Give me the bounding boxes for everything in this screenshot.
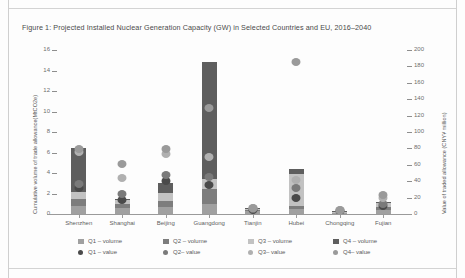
legend-square-icon — [163, 239, 169, 244]
x-tick-mark — [166, 214, 167, 218]
bar-segment — [202, 62, 217, 179]
value-marker — [74, 145, 83, 153]
y-tick-mark — [52, 153, 57, 154]
value-marker — [118, 174, 127, 182]
y-tick-left: 6 — [36, 149, 50, 155]
bar-segment — [115, 204, 130, 209]
value-marker — [161, 171, 170, 179]
bar-segment — [158, 193, 173, 201]
y-tick-right: 140 — [414, 95, 430, 101]
bar-segment — [289, 206, 304, 210]
y-tick-mark — [52, 91, 57, 92]
value-marker — [205, 173, 214, 181]
bar-segment — [158, 201, 173, 207]
y-tick-mark — [407, 99, 412, 100]
value-marker — [205, 104, 214, 112]
y-tick-mark — [407, 148, 412, 149]
x-axis-line — [47, 214, 412, 215]
legend-label: Q1 – volume — [88, 238, 122, 244]
bar-segment — [71, 199, 86, 206]
legend-circle-icon — [78, 250, 83, 255]
x-tick-mark — [253, 214, 254, 218]
legend-circle-icon — [248, 250, 253, 255]
y-tick-left: 8 — [36, 128, 50, 134]
value-marker — [292, 194, 301, 202]
page-rule-bottom — [9, 268, 456, 269]
x-tick-mark — [340, 214, 341, 218]
legend-square-icon — [333, 239, 339, 244]
y-axis-right-title: Value of traded allowance (CNY¥ million) — [441, 112, 447, 214]
y-tick-mark — [52, 132, 57, 133]
x-axis-label-hubei: Hubei — [288, 220, 304, 226]
value-marker — [118, 160, 127, 168]
y-tick-left: 4 — [36, 169, 50, 175]
value-marker — [205, 153, 214, 161]
page-border-left — [8, 0, 9, 278]
legend-circle-icon — [163, 250, 168, 255]
y-tick-right: 120 — [414, 112, 430, 118]
y-tick-mark — [407, 50, 412, 51]
value-marker — [205, 181, 214, 189]
x-axis-label-shenzhen: Shenzhen — [65, 220, 92, 226]
y-tick-mark — [52, 50, 57, 51]
page-rule-top — [9, 8, 456, 9]
y-tick-mark — [407, 198, 412, 199]
y-tick-right: 180 — [414, 62, 430, 68]
y-tick-right: 200 — [414, 46, 430, 52]
value-marker — [118, 190, 127, 198]
value-marker — [379, 191, 388, 199]
x-axis-label-fujian: Fujian — [375, 220, 391, 226]
bar-segment — [202, 204, 217, 214]
y-tick-left: 12 — [36, 87, 50, 93]
chart-legend: Q1 – volumeQ2 – volumeQ3 – volumeQ4 – vo… — [0, 238, 465, 264]
x-tick-mark — [296, 214, 297, 218]
bar-segment — [289, 169, 304, 174]
y-tick-left: 14 — [36, 67, 50, 73]
y-tick-mark — [52, 112, 57, 113]
y-tick-mark — [407, 66, 412, 67]
legend-label: Q4– value — [343, 249, 370, 255]
legend-label: Q2– value — [173, 249, 200, 255]
y-tick-mark — [407, 83, 412, 84]
figure-title: Figure 1: Projected Installed Nuclear Ge… — [22, 23, 442, 32]
y-tick-left: 2 — [36, 190, 50, 196]
y-tick-mark — [52, 71, 57, 72]
value-marker — [248, 204, 257, 212]
legend-square-icon — [248, 239, 254, 244]
legend-circle-icon — [333, 250, 338, 255]
figure-page: Figure 1: Projected Installed Nuclear Ge… — [0, 0, 465, 278]
y-tick-right: 20 — [414, 194, 430, 200]
y-tick-right: 60 — [414, 161, 430, 167]
x-tick-mark — [383, 214, 384, 218]
value-marker — [292, 176, 301, 184]
legend-label: Q4 – volume — [343, 238, 377, 244]
value-marker — [335, 206, 344, 214]
bar-segment — [71, 192, 86, 199]
y-tick-mark — [407, 116, 412, 117]
x-axis-label-tianjin: Tianjin — [244, 220, 261, 226]
y-tick-right: 0 — [414, 210, 430, 216]
y-tick-right: 80 — [414, 144, 430, 150]
y-tick-mark — [407, 165, 412, 166]
y-tick-right: 100 — [414, 128, 430, 134]
legend-label: Q1 – value — [88, 249, 117, 255]
y-tick-mark — [52, 194, 57, 195]
y-tick-left: 16 — [36, 46, 50, 52]
y-tick-mark — [407, 181, 412, 182]
x-tick-mark — [122, 214, 123, 218]
value-marker — [161, 145, 170, 153]
legend-label: Q3 – volume — [258, 238, 292, 244]
x-axis-label-chongqing: Chongqing — [325, 220, 354, 226]
value-marker — [292, 184, 301, 192]
y-tick-left: 0 — [36, 210, 50, 216]
page-border-right — [456, 0, 457, 278]
y-tick-right: 40 — [414, 177, 430, 183]
x-axis-label-beijing: Beijing — [157, 220, 175, 226]
x-tick-mark — [79, 214, 80, 218]
y-tick-mark — [52, 173, 57, 174]
x-axis-label-shanghai: Shanghai — [110, 220, 135, 226]
bar-segment — [158, 207, 173, 214]
bar-segment — [202, 189, 217, 204]
y-tick-right: 160 — [414, 79, 430, 85]
legend-square-icon — [78, 239, 84, 244]
